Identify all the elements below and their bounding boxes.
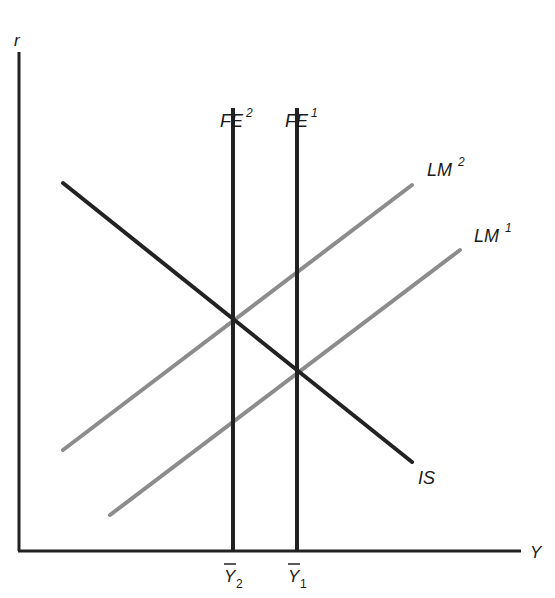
is-label: IS: [418, 468, 435, 488]
ybar2-tick-label: Y 2: [224, 564, 243, 591]
svg-text:1: 1: [311, 106, 318, 120]
svg-text:FE: FE: [220, 111, 244, 131]
lm2-label: LM 2: [427, 155, 465, 180]
svg-text:1: 1: [505, 221, 512, 235]
ybar1-tick-label: Y 1: [288, 564, 307, 591]
svg-text:LM: LM: [427, 160, 452, 180]
svg-text:2: 2: [457, 155, 465, 169]
lm1-curve: [110, 250, 460, 515]
fe1-label: FE 1: [285, 106, 318, 131]
is-lm-fe-diagram: r Y FE 2 FE 1 LM 2 LM 1 IS Y 2 Y 1: [0, 0, 555, 598]
fe2-label: FE 2: [220, 106, 253, 131]
y-axis-label: r: [14, 31, 21, 50]
svg-text:FE: FE: [285, 111, 309, 131]
svg-text:2: 2: [236, 577, 243, 591]
svg-text:LM: LM: [474, 226, 499, 246]
svg-text:1: 1: [300, 577, 307, 591]
svg-text:2: 2: [245, 106, 253, 120]
lm1-label: LM 1: [474, 221, 512, 246]
x-axis-label: Y: [530, 543, 543, 562]
